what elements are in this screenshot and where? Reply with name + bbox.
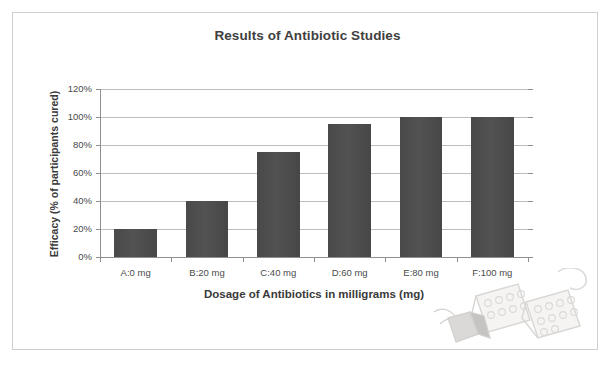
x-axis-tick	[243, 257, 244, 262]
y-axis-tick-right	[528, 89, 533, 90]
bar-4	[328, 124, 371, 257]
x-axis-tick-label: D:60 mg	[314, 267, 385, 278]
gridline-60	[100, 173, 528, 174]
y-axis-tick-label: 80%	[52, 140, 92, 150]
bar-5	[400, 117, 443, 257]
x-axis-tick-label: B:20 mg	[171, 267, 242, 278]
x-axis-tick	[385, 257, 386, 262]
y-axis-tick-right	[528, 229, 533, 230]
y-axis-tick-right	[528, 117, 533, 118]
y-axis-tick-label: 60%	[52, 168, 92, 178]
bar-3	[257, 152, 300, 257]
gridline-80	[100, 145, 528, 146]
x-axis-tick-label: E:80 mg	[385, 267, 456, 278]
x-axis-tick	[457, 257, 458, 262]
x-axis-tick-label: C:40 mg	[243, 267, 314, 278]
gridline-40	[100, 201, 528, 202]
y-axis-tick	[96, 229, 101, 230]
y-axis-tick-right	[528, 145, 533, 146]
plot-area: 120%100%80%60%40%20%0% A:0 mgB:20 mgC:40…	[100, 89, 528, 257]
y-axis-tick-label: 0%	[52, 252, 92, 262]
y-axis-tick-right	[528, 173, 533, 174]
y-axis-tick-label: 20%	[52, 224, 92, 234]
x-axis-tick	[171, 257, 172, 262]
gridline-20	[100, 229, 528, 230]
y-axis-tick	[96, 201, 101, 202]
y-axis-tick	[96, 117, 101, 118]
bar-2	[186, 201, 229, 257]
y-axis-tick	[96, 173, 101, 174]
bar-6	[471, 117, 514, 257]
x-axis-tick-label: F:100 mg	[457, 267, 528, 278]
x-axis-tick	[528, 257, 529, 262]
y-axis-tick-right	[528, 201, 533, 202]
x-axis-tick	[100, 257, 101, 262]
y-axis-tick	[96, 89, 101, 90]
bar-1	[114, 229, 157, 257]
gridline-100	[100, 117, 528, 118]
y-axis-tick	[96, 145, 101, 146]
x-axis-tick	[314, 257, 315, 262]
y-axis-tick-label: 40%	[52, 196, 92, 206]
y-axis-tick-label: 100%	[52, 112, 92, 122]
x-axis-tick-label: A:0 mg	[100, 267, 171, 278]
y-axis-tick-label: 120%	[52, 84, 92, 94]
chart-title: Results of Antibiotic Studies	[0, 28, 615, 43]
x-axis-title: Dosage of Antibiotics in milligrams (mg)	[100, 288, 528, 300]
gridline-120	[100, 89, 528, 90]
